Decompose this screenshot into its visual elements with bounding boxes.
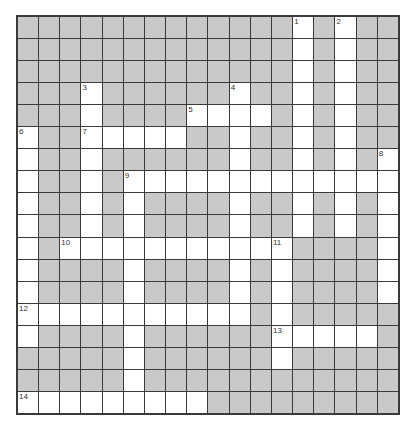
crossword-cell-open[interactable] [166,304,186,325]
crossword-cell-open[interactable]: 13 [272,326,292,347]
crossword-cell-open[interactable] [378,193,398,214]
crossword-cell-open[interactable] [272,282,292,303]
crossword-cell-open[interactable] [230,304,250,325]
crossword-cell-open[interactable] [103,127,123,148]
crossword-cell-open[interactable] [145,392,165,413]
crossword-cell-open[interactable] [335,215,355,236]
crossword-cell-open[interactable] [293,171,313,192]
crossword-cell-open[interactable]: 11 [272,238,292,259]
crossword-cell-open[interactable] [124,282,144,303]
crossword-cell-open[interactable] [314,171,334,192]
crossword-cell-open[interactable] [230,105,250,126]
crossword-cell-open[interactable] [18,149,38,170]
crossword-cell-open[interactable] [335,39,355,60]
crossword-cell-open[interactable] [293,326,313,347]
crossword-cell-open[interactable] [230,215,250,236]
crossword-cell-open[interactable] [18,238,38,259]
crossword-cell-open[interactable] [378,260,398,281]
crossword-cell-open[interactable] [272,304,292,325]
crossword-cell-open[interactable] [18,282,38,303]
crossword-cell-open[interactable] [272,348,292,369]
crossword-cell-open[interactable] [145,238,165,259]
crossword-cell-open[interactable] [230,238,250,259]
crossword-cell-open[interactable] [81,392,101,413]
crossword-cell-open[interactable] [60,392,80,413]
crossword-cell-open[interactable] [335,83,355,104]
crossword-cell-open[interactable] [378,238,398,259]
crossword-cell-open[interactable] [208,105,228,126]
crossword-cell-open[interactable] [124,215,144,236]
crossword-cell-open[interactable]: 12 [18,304,38,325]
crossword-cell-open[interactable] [145,171,165,192]
crossword-cell-open[interactable] [293,193,313,214]
crossword-cell-open[interactable] [378,215,398,236]
crossword-cell-open[interactable] [81,304,101,325]
crossword-cell-open[interactable] [81,105,101,126]
crossword-cell-open[interactable] [335,61,355,82]
crossword-cell-open[interactable] [81,149,101,170]
crossword-cell-open[interactable] [124,127,144,148]
crossword-cell-open[interactable] [187,238,207,259]
crossword-cell-open[interactable] [378,282,398,303]
crossword-cell-open[interactable] [251,171,271,192]
crossword-cell-open[interactable] [60,304,80,325]
crossword-cell-open[interactable] [124,193,144,214]
crossword-cell-open[interactable] [81,238,101,259]
crossword-cell-open[interactable] [187,392,207,413]
crossword-cell-open[interactable] [335,149,355,170]
crossword-cell-open[interactable] [230,127,250,148]
crossword-cell-open[interactable] [208,304,228,325]
crossword-cell-open[interactable] [293,149,313,170]
crossword-cell-open[interactable] [18,326,38,347]
crossword-cell-open[interactable] [293,61,313,82]
crossword-cell-open[interactable] [293,127,313,148]
crossword-cell-open[interactable] [18,171,38,192]
crossword-cell-open[interactable] [230,282,250,303]
crossword-cell-open[interactable]: 7 [81,127,101,148]
crossword-cell-open[interactable] [230,193,250,214]
crossword-cell-open[interactable] [166,171,186,192]
crossword-cell-open[interactable] [81,215,101,236]
crossword-cell-open[interactable] [81,171,101,192]
crossword-cell-open[interactable] [335,105,355,126]
crossword-cell-open[interactable] [357,171,377,192]
crossword-cell-open[interactable] [39,392,59,413]
crossword-cell-open[interactable] [124,238,144,259]
crossword-cell-open[interactable]: 10 [60,238,80,259]
crossword-cell-open[interactable] [230,260,250,281]
crossword-cell-open[interactable] [18,215,38,236]
crossword-cell-open[interactable] [124,304,144,325]
crossword-cell-open[interactable] [272,171,292,192]
crossword-cell-open[interactable] [293,83,313,104]
crossword-cell-open[interactable] [124,392,144,413]
crossword-cell-open[interactable]: 3 [81,83,101,104]
crossword-cell-open[interactable] [378,171,398,192]
crossword-cell-open[interactable] [251,238,271,259]
crossword-cell-open[interactable] [18,260,38,281]
crossword-cell-open[interactable] [187,171,207,192]
crossword-cell-open[interactable] [272,260,292,281]
crossword-cell-open[interactable]: 4 [230,83,250,104]
crossword-cell-open[interactable] [166,127,186,148]
crossword-cell-open[interactable]: 6 [18,127,38,148]
crossword-cell-open[interactable] [230,149,250,170]
crossword-cell-open[interactable] [335,326,355,347]
crossword-cell-open[interactable] [81,193,101,214]
crossword-cell-open[interactable] [293,215,313,236]
crossword-cell-open[interactable] [166,392,186,413]
crossword-cell-open[interactable] [103,238,123,259]
crossword-cell-open[interactable]: 14 [18,392,38,413]
crossword-cell-open[interactable] [103,304,123,325]
crossword-cell-open[interactable] [335,171,355,192]
crossword-cell-open[interactable] [39,304,59,325]
crossword-cell-open[interactable] [124,326,144,347]
crossword-cell-open[interactable]: 9 [124,171,144,192]
crossword-cell-open[interactable]: 1 [293,17,313,38]
crossword-cell-open[interactable] [293,39,313,60]
crossword-cell-open[interactable] [145,304,165,325]
crossword-cell-open[interactable] [335,127,355,148]
crossword-cell-open[interactable]: 5 [187,105,207,126]
crossword-cell-open[interactable] [251,105,271,126]
crossword-cell-open[interactable] [187,304,207,325]
crossword-cell-open[interactable] [18,193,38,214]
